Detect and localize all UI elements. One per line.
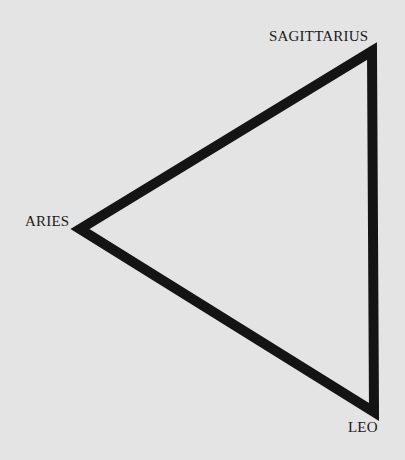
vertex-label-sagittarius: SAGITTARIUS [269,29,368,44]
vertex-label-leo: LEO [348,420,378,435]
diagram-canvas [0,0,405,460]
fire-triangle [80,51,374,412]
triangle-shape [0,0,405,460]
vertex-label-aries: ARIES [25,214,69,229]
